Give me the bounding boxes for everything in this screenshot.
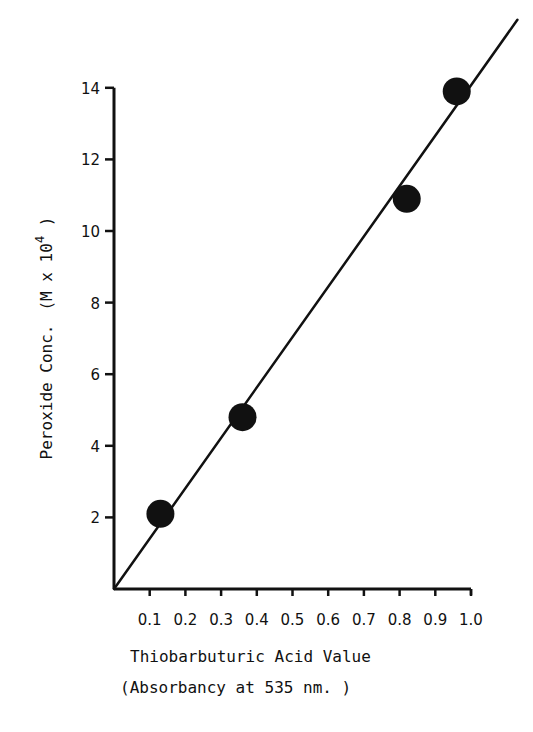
data-points (146, 77, 470, 527)
x-tick-label: 0.1 (138, 611, 162, 629)
x-tick-label: 0.6 (316, 611, 340, 629)
x-axis-subtitle: (Absorbancy at 535 nm. ) (120, 678, 351, 697)
y-tick-label: 4 (90, 438, 100, 456)
chart: 2468101214 0.10.20.30.40.50.60.70.80.91.… (0, 0, 533, 732)
data-point (229, 403, 257, 431)
x-tick-label: 0.7 (352, 611, 376, 629)
x-tick-label: 0.3 (209, 611, 233, 629)
x-tick-label: 0.2 (173, 611, 197, 629)
x-axis: 0.10.20.30.40.50.60.70.80.91.0 (114, 589, 483, 629)
x-tick-label: 0.9 (423, 611, 447, 629)
data-point (443, 77, 471, 105)
y-tick-label: 14 (81, 80, 100, 98)
x-tick-label: 0.5 (281, 611, 305, 629)
x-tick-label: 0.4 (245, 611, 269, 629)
y-tick-label: 10 (81, 223, 100, 241)
x-axis-title: Thiobarbuturic Acid Value (130, 647, 371, 666)
y-tick-label: 2 (90, 509, 100, 527)
y-tick-label: 8 (90, 295, 100, 313)
y-tick-label: 12 (81, 151, 100, 169)
data-point (146, 500, 174, 528)
data-point (393, 185, 421, 213)
x-tick-label: 0.8 (388, 611, 412, 629)
y-axis-title: Peroxide Conc.(M x 104 ) (33, 217, 56, 460)
y-tick-label: 6 (90, 366, 100, 384)
x-tick-label: 1.0 (459, 611, 483, 629)
y-axis: 2468101214 (81, 80, 114, 589)
